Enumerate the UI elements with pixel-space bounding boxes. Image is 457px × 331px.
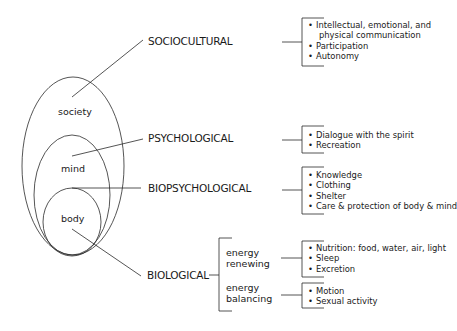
list-item: Participation xyxy=(308,41,431,51)
mind-ellipse xyxy=(34,135,110,255)
sociocultural-label: SOCIOCULTURAL xyxy=(148,36,232,47)
list-item: Motion xyxy=(308,286,378,296)
energy-balancing-line2: balancing xyxy=(226,293,272,304)
list-item: Sleep xyxy=(308,253,446,263)
list-item: Autonomy xyxy=(308,51,431,61)
list-item: Recreation xyxy=(308,140,414,150)
list-item: Dialogue with the spirit xyxy=(308,130,414,140)
energy-balancing-label: energy balancing xyxy=(226,282,272,304)
energy-renewing-line2: renewing xyxy=(226,258,270,269)
psychological-list: Dialogue with the spirit Recreation xyxy=(308,130,414,151)
psychological-label: PSYCHOLOGICAL xyxy=(148,133,233,144)
list-item: Nutrition: food, water, air, light xyxy=(308,243,446,253)
list-item: Care & protection of body & mind xyxy=(308,201,457,211)
mind-label: mind xyxy=(61,164,85,174)
psychological-leader xyxy=(72,139,143,156)
energy-balancing-list: Motion Sexual activity xyxy=(308,286,378,307)
biological-label: BIOLOGICAL xyxy=(147,270,209,281)
biopsychological-list: Knowledge Clothing Shelter Care & protec… xyxy=(308,170,457,212)
biopsychological-label: BIOPSYCHOLOGICAL xyxy=(148,183,251,194)
list-item: Clothing xyxy=(308,180,457,190)
energy-balancing-line1: energy xyxy=(226,282,272,293)
body-label: body xyxy=(61,214,85,224)
society-label: society xyxy=(58,107,92,117)
list-item: Knowledge xyxy=(308,170,457,180)
list-item: Sexual activity xyxy=(308,296,378,306)
list-item: Excretion xyxy=(308,264,446,274)
list-item: Intellectual, emotional, andphysical com… xyxy=(308,20,431,41)
energy-renewing-line1: energy xyxy=(226,247,270,258)
energy-renewing-label: energy renewing xyxy=(226,247,270,269)
sociocultural-leader xyxy=(72,40,143,97)
energy-renewing-list: Nutrition: food, water, air, light Sleep… xyxy=(308,243,446,274)
list-item: Shelter xyxy=(308,191,457,201)
sociocultural-list: Intellectual, emotional, andphysical com… xyxy=(308,20,431,62)
